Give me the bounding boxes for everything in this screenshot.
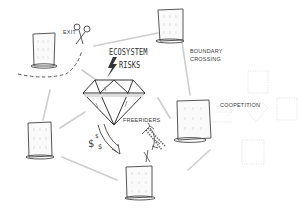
building-icon bbox=[26, 122, 54, 159]
svg-text:$: $ bbox=[95, 132, 99, 139]
dollar-icon: $ $ $ bbox=[88, 132, 102, 151]
title-line1: ECOSYSTEM bbox=[109, 48, 148, 57]
svg-text:$: $ bbox=[88, 138, 94, 149]
title-line2: RISKS bbox=[119, 61, 140, 70]
exit-label: EXIT bbox=[63, 30, 76, 36]
boundary-crossing-label-2: CROSSING bbox=[190, 57, 221, 63]
boundary-crossing-label-1: BOUNDARY bbox=[190, 49, 223, 55]
svg-text:$: $ bbox=[98, 143, 102, 151]
building-icon bbox=[125, 166, 155, 200]
scissors-icon bbox=[74, 24, 90, 44]
building-icon bbox=[174, 100, 211, 142]
freeriders-label: FREERIDERS bbox=[123, 118, 160, 124]
building-icon bbox=[156, 9, 184, 43]
building-icon bbox=[31, 33, 57, 68]
ecosystem-risks-diagram: $ $ $ EXIT ECOSYSTEM RISKS BOUNDARY CROS… bbox=[0, 0, 301, 216]
coopetition-faded-buildings bbox=[212, 71, 297, 164]
lightning-icon bbox=[107, 57, 117, 78]
coopetition-label: COOPETITION bbox=[220, 103, 260, 109]
hand-icon bbox=[142, 123, 165, 162]
